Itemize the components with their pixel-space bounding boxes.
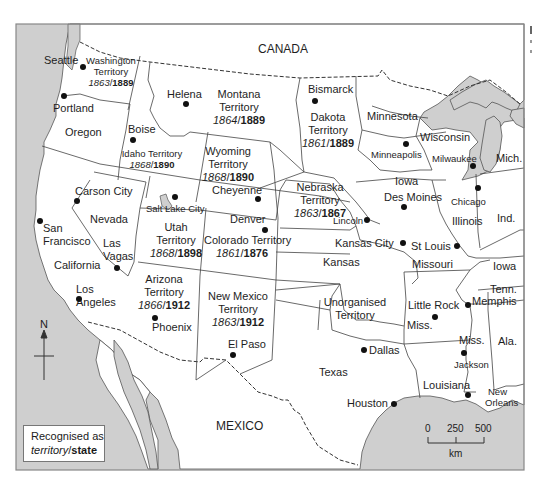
city-label-phoenix: Phoenix	[152, 321, 192, 334]
state-label-mississippi: Miss.	[459, 334, 485, 347]
city-dot-helena	[183, 101, 189, 107]
territory-utah: Utah Territory 1868/1898	[145, 221, 207, 260]
city-label-portland: Portland	[53, 102, 94, 115]
state-label-california: California	[54, 259, 100, 272]
city-label-cheyenne: Cheyenne	[212, 184, 262, 197]
city-label-kansas-city: Kansas City	[335, 237, 394, 250]
city-label-new: New	[488, 386, 507, 397]
state-label-iowa: Iowa	[395, 175, 418, 188]
city-label-helena: Helena	[167, 88, 202, 101]
state-label-iowa-east: Iowa	[493, 260, 516, 273]
city-label-houston: Houston	[347, 397, 388, 410]
city-label-las: Las	[103, 237, 121, 250]
territory-colorado: Colorado Territory 1861/1876	[204, 234, 280, 260]
country-label-mexico: MEXICO	[216, 420, 263, 433]
city-label-memphis: Memphis	[472, 295, 517, 308]
city-dot-new-orleans	[465, 392, 471, 398]
territory-arizona: Arizona Territory 1866/1912	[136, 273, 192, 312]
scale-tick-500: 500	[475, 423, 492, 434]
city-dot-des-moines	[401, 204, 407, 210]
city-dot-portland	[61, 93, 67, 99]
city-label-san: San	[43, 222, 63, 235]
city-dot-bismarck	[312, 98, 318, 104]
city-dot-little-rock	[432, 314, 438, 320]
scale-tick-0: 0	[425, 423, 431, 434]
city-dot-denver	[262, 227, 268, 233]
city-label-los: Los	[76, 283, 94, 296]
state-label-oregon: Oregon	[65, 126, 102, 139]
city-label-little-rock: Little Rock	[408, 299, 459, 312]
city-label-orleans: Orleans	[485, 397, 518, 408]
territory-dakota: Dakota Territory 1861/1889	[296, 111, 360, 150]
city-dot-las-vegas	[114, 265, 120, 271]
city-dot-jackson	[461, 350, 467, 356]
city-dot-houston	[391, 401, 397, 407]
city-dot-memphis	[465, 302, 471, 308]
state-label-michigan: Mich.	[496, 152, 522, 165]
city-dot-chicago	[475, 185, 481, 191]
territory-wyoming: Wyoming Territory 1868/1890	[196, 145, 260, 184]
city-label-el-paso: El Paso	[228, 338, 266, 351]
city-label-denver: Denver	[230, 213, 265, 226]
city-label-milwaukee: Milwaukee	[432, 153, 477, 164]
city-label-lincoln: Lincoln	[333, 215, 363, 226]
city-label-salt-lake-city: Salt Lake City	[146, 203, 205, 214]
state-label-arkansas: Miss.	[407, 319, 433, 332]
city-dot-lincoln	[364, 217, 370, 223]
city-dot-los-angeles	[76, 296, 82, 302]
city-dot-st-louis	[454, 243, 460, 249]
city-dot-milwaukee	[470, 163, 476, 169]
city-dot-cheyenne	[255, 196, 261, 202]
edge-mark	[530, 40, 532, 43]
city-label-jackson: Jackson	[454, 359, 489, 370]
city-dot-minneapolis	[403, 141, 409, 147]
state-label-alabama: Ala.	[498, 335, 517, 348]
state-label-illinois: Illinois	[452, 215, 483, 228]
state-label-nevada: Nevada	[90, 213, 128, 226]
city-dot-el-paso	[230, 352, 236, 358]
city-label-des-moines: Des Moines	[384, 191, 442, 204]
city-dot-dallas	[361, 347, 367, 353]
city-dot-seattle	[80, 64, 86, 70]
city-label-vagas: Vagas	[103, 250, 133, 263]
city-dot-boise	[130, 137, 136, 143]
city-label-bismarck: Bismarck	[308, 83, 353, 96]
city-label-chicago: Chicago	[451, 196, 486, 207]
edge-mark	[530, 50, 532, 53]
state-label-texas: Texas	[319, 366, 348, 379]
scale-tick-250: 250	[447, 423, 464, 434]
territory-new-mexico: New Mexico Territory 1863/1912	[206, 290, 270, 329]
state-label-minnesota: Minnesota	[367, 110, 418, 123]
compass-north-label: N	[40, 318, 48, 331]
city-label-carson-city: Carson City	[75, 185, 132, 198]
city-label-seattle: Seattle	[44, 54, 78, 67]
state-label-louisiana: Louisiana	[423, 379, 470, 392]
map-legend: Recognised as territory/state	[23, 425, 105, 462]
state-label-kansas: Kansas	[323, 256, 360, 269]
edge-mark	[530, 26, 532, 34]
region-unorganised-territory: Unorganised Territory	[322, 296, 388, 322]
city-label-francisco: Francisco	[43, 235, 91, 248]
city-dot-salt-lake-city	[172, 194, 178, 200]
state-label-missouri: Missouri	[412, 258, 453, 271]
city-dot-kansas-city	[400, 240, 406, 246]
country-label-canada: CANADA	[258, 43, 308, 56]
state-label-wisconsin: Wisconsin	[420, 131, 470, 144]
territory-washington: Washington Territory 1863/1889	[83, 55, 139, 88]
city-label-st-louis: St Louis	[411, 240, 451, 253]
city-label-boise: Boise	[128, 123, 156, 136]
territory-idaho: Idaho Territory 1868/1890	[118, 148, 186, 170]
scale-unit: km	[449, 448, 462, 459]
territory-montana: Montana Territory 1864/1889	[207, 88, 271, 127]
state-label-indiana: Ind.	[497, 212, 515, 225]
city-label-dallas: Dallas	[369, 344, 400, 357]
city-label-minneapolis: Minneapolis	[371, 149, 422, 160]
city-dot-carson-city	[74, 198, 80, 204]
